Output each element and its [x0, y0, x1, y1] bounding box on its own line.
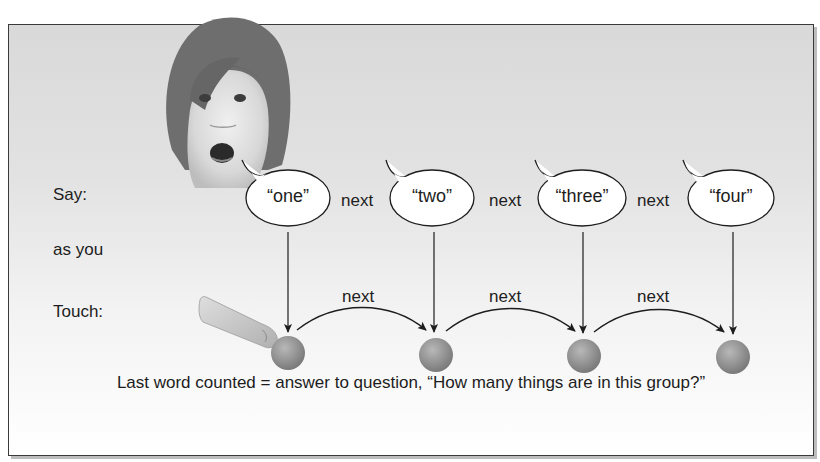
caption-text: Last word counted = answer to question, …	[8, 373, 814, 393]
say-next-label-2: next	[489, 191, 521, 211]
vertical-arrows	[288, 232, 733, 334]
curved-arrow-icon	[594, 310, 724, 333]
say-next-label-1: next	[341, 191, 373, 211]
say-label: Say:	[53, 185, 87, 205]
touch-next-label-1: next	[342, 287, 374, 307]
eye-icon	[199, 94, 211, 102]
sphere-object-2	[419, 338, 453, 372]
child-face-illustration	[166, 18, 290, 188]
say-next-label-3: next	[637, 191, 669, 211]
touch-label: Touch:	[53, 302, 103, 322]
touch-next-label-2: next	[489, 287, 521, 307]
curved-next-arrows	[297, 308, 724, 333]
sphere-object-1	[271, 336, 305, 370]
counted-objects	[271, 336, 750, 374]
as-you-label: as you	[53, 240, 103, 260]
eye-icon	[234, 94, 246, 102]
curved-arrow-icon	[446, 309, 575, 332]
spoken-word-two: “two”	[390, 186, 474, 207]
spoken-word-one: “one”	[246, 186, 330, 207]
sphere-object-4	[716, 340, 750, 374]
spoken-word-three: “three”	[540, 186, 624, 207]
pointing-finger-illustration	[199, 297, 277, 348]
sphere-object-3	[567, 339, 601, 373]
touch-next-label-3: next	[637, 287, 669, 307]
curved-arrow-icon	[297, 308, 426, 331]
spoken-word-four: “four”	[689, 186, 773, 207]
